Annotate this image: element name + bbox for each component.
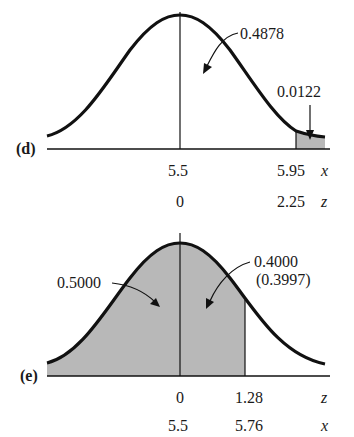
area-sublabel-0.3997: (0.3997): [256, 272, 311, 288]
z-tick-cut: 2.25: [277, 194, 305, 210]
area-label-0.4878: 0.4878: [240, 26, 284, 42]
area-label-0.0122: 0.0122: [277, 84, 321, 100]
panel-e-label: (e): [20, 368, 38, 384]
z-tick-mean: 0: [176, 194, 184, 210]
z-tick-mean: 0: [176, 390, 184, 406]
z-axis-label: z: [321, 390, 327, 406]
x-tick-cut: 5.76: [235, 418, 263, 434]
x-tick-cut: 5.95: [277, 163, 305, 179]
arrow-0.4878: [207, 33, 238, 66]
x-axis-label: x: [321, 163, 328, 179]
panel-d-label: (d): [16, 141, 36, 157]
panel-d-chart: [47, 12, 330, 149]
x-tick-mean: 5.5: [168, 418, 188, 434]
z-tick-cut: 1.28: [235, 390, 263, 406]
x-axis-label: x: [321, 418, 328, 434]
z-axis-label: z: [321, 194, 327, 210]
area-label-0.5000: 0.5000: [57, 275, 101, 291]
x-tick-mean: 5.5: [168, 163, 188, 179]
area-label-0.4000: 0.4000: [254, 254, 298, 270]
normal-curves-diagram: [0, 0, 354, 437]
